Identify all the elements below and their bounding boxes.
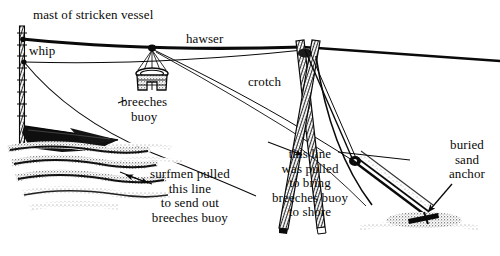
label-buried-sand-anchor: buried sand anchor <box>449 138 485 182</box>
label-surfmen-pulled-note: surfmen pulled this line to send out bre… <box>150 167 230 225</box>
breeches-buoy-diagram: mast of stricken vessel whip hawser bree… <box>0 0 500 256</box>
label-mast-of-stricken-vessel: mast of stricken vessel <box>33 8 153 23</box>
label-this-line-to-shore-note: this line was pulled to bring breeches b… <box>272 147 348 220</box>
diagram-illustration <box>0 0 500 256</box>
label-whip: whip <box>29 44 55 59</box>
label-breeches-buoy: breeches buoy <box>121 95 167 124</box>
label-hawser: hawser <box>186 32 223 47</box>
label-crotch: crotch <box>248 75 281 90</box>
